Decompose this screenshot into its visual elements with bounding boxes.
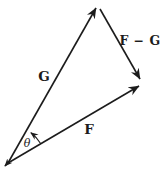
- vector-g-line: [8, 8, 96, 163]
- g-label: G: [38, 68, 50, 84]
- f-minus-g-label: F − G: [119, 33, 160, 48]
- vector-diagram-svg: G F F − G θ: [0, 0, 163, 170]
- angle-arc: [31, 133, 41, 144]
- vector-f-line: [8, 86, 139, 163]
- f-label: F: [84, 121, 94, 137]
- origin-arrowhead: [5, 162, 9, 167]
- vector-diagram: G F F − G θ: [0, 0, 163, 170]
- theta-label: θ: [24, 137, 31, 150]
